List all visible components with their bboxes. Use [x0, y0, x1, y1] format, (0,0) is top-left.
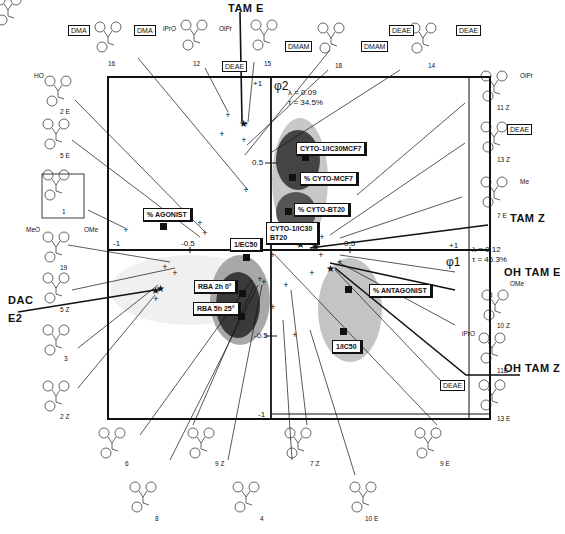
- compound-8: 8: [155, 515, 159, 522]
- compound-10E: 10 E: [365, 515, 378, 522]
- compound-5Z: 5 Z: [60, 306, 69, 313]
- svg-text:+: +: [243, 185, 248, 195]
- svg-text:+: +: [337, 257, 342, 267]
- compound-11Z: 11 Z: [497, 104, 510, 111]
- svg-text:+: +: [270, 250, 275, 260]
- substituent-dmam-right: DMAM: [361, 41, 388, 52]
- var-pct-antagonist: % ANTAGONIST: [369, 284, 433, 298]
- compound-18: 18: [335, 62, 342, 69]
- svg-text:★: ★: [239, 118, 248, 129]
- ref-tam-z: TAM Z: [510, 212, 545, 224]
- svg-text:+: +: [241, 135, 246, 145]
- svg-text:+: +: [172, 268, 177, 278]
- ref-oh-tam-z: OH TAM Z: [504, 362, 560, 374]
- svg-text:★: ★: [151, 285, 160, 296]
- phi1-stats: λ = 0.12 τ = 45.3%: [472, 245, 507, 265]
- compound-7Z: 7 Z: [310, 460, 319, 467]
- svg-text:+: +: [261, 277, 266, 287]
- x-tick-0.5: 0.5: [344, 239, 355, 248]
- substituent-ome-10z: OMe: [510, 280, 524, 287]
- substituent-ipro-11e: iPrO: [462, 330, 475, 337]
- var-ec50: 1/EC50: [230, 238, 263, 252]
- substituent-deae-13z: DEAE: [507, 124, 532, 135]
- factorial-biplot: ++++ +++ ++++ ++++ ++++ +++ ++ ★★★ ★★★ +…: [0, 0, 565, 534]
- var-cyto-ic30-mcf7: CYTO-1/IC30MCF7: [296, 142, 367, 156]
- substituent-deae-13e: DEAE: [440, 380, 465, 391]
- phi2-tau: τ = 34.5%: [288, 98, 323, 108]
- ref-oh-tam-e: OH TAM E: [504, 266, 561, 278]
- substituent-ome-19: OMe: [84, 226, 98, 233]
- compound-9Z: 9 Z: [215, 460, 224, 467]
- var-rba-5h: RBA 5h 25°: [193, 302, 241, 316]
- substituent-deae-14-left: DEAE: [389, 25, 414, 36]
- svg-text:+: +: [219, 129, 224, 139]
- substituent-dma-left: DMA: [68, 25, 90, 36]
- substituent-meo-19: MeO: [26, 226, 40, 233]
- svg-text:+: +: [270, 302, 275, 312]
- substituent-oipr-11z: OiPr: [520, 72, 533, 79]
- compound-9E: 9 E: [440, 460, 450, 467]
- phi1-axis-label: φ1: [446, 255, 460, 269]
- phi2-lambda: λ = 0.09: [288, 88, 323, 98]
- compound-7E: 7 E: [497, 212, 507, 219]
- substituent-ipro: iPrO: [163, 25, 176, 32]
- ref-tam-e: TAM E: [228, 2, 264, 14]
- compound-10Z: 10 Z: [497, 322, 510, 329]
- substituent-deae-14-right: DEAE: [456, 25, 481, 36]
- compound-13E: 13 E: [497, 415, 510, 422]
- y-tick-minus0.5: -0.5: [254, 331, 268, 340]
- x-tick-plus1: +1: [449, 241, 458, 250]
- compound-6: 6: [125, 460, 129, 467]
- compound-3: 3: [64, 355, 68, 362]
- ref-e2: E2: [8, 312, 22, 324]
- var-cyto-ic30-bt20: CYTO-1/IC30 BT20: [266, 222, 320, 245]
- compound-11E: 11E: [497, 367, 508, 374]
- substituent-me-7e: Me: [520, 178, 529, 185]
- svg-text:+: +: [197, 218, 202, 228]
- y-tick-0.5: 0.5: [252, 158, 263, 167]
- svg-text:+: +: [202, 228, 207, 238]
- phi2-stats: λ = 0.09 τ = 34.5%: [288, 88, 323, 108]
- compound-14: 14: [428, 62, 435, 69]
- svg-text:+: +: [283, 280, 288, 290]
- leader-lines: [68, 50, 465, 475]
- svg-text:+: +: [123, 225, 128, 235]
- phi1-tau: τ = 45.3%: [472, 255, 507, 265]
- svg-text:+: +: [319, 232, 324, 242]
- var-pct-cyto-mcf7: % CYTO-MCF7: [300, 172, 359, 186]
- cluster-agonist-rba: [110, 255, 270, 345]
- compound-12: 12: [193, 60, 200, 67]
- y-tick-minus1: -1: [258, 410, 265, 419]
- compound-1: 1: [62, 208, 66, 215]
- compound-15: 15: [264, 60, 271, 67]
- compound-16: 16: [108, 60, 115, 67]
- svg-text:+: +: [162, 262, 167, 272]
- substituent-deae-15: DEAE: [222, 61, 247, 72]
- compound-5E: 5 E: [60, 152, 70, 159]
- svg-text:+: +: [225, 110, 230, 120]
- phi1-lambda: λ = 0.12: [472, 245, 507, 255]
- x-tick-minus0.5: -0.5: [181, 239, 195, 248]
- compound-2Z: 2 Z: [60, 413, 69, 420]
- compound-4: 4: [260, 515, 264, 522]
- substituent-dmam-left: DMAM: [285, 41, 312, 52]
- var-pct-agonist: % AGONIST: [143, 208, 193, 222]
- compound-13Z: 13 Z: [497, 156, 510, 163]
- ref-dac: DAC: [8, 294, 33, 306]
- substituent-dma-right: DMA: [134, 25, 156, 36]
- substituent-oipr: OiPr: [219, 25, 232, 32]
- substituent-ho-2e: HO: [34, 72, 44, 79]
- svg-text:★: ★: [326, 263, 335, 274]
- compound-2E: 2 E: [60, 108, 70, 115]
- compound-19: 19: [60, 264, 67, 271]
- phi2-axis-label: φ2: [274, 79, 288, 93]
- svg-text:+: +: [292, 330, 297, 340]
- x-tick-minus1: -1: [113, 239, 120, 248]
- var-pct-cyto-bt20: % CYTO-BT20: [294, 203, 351, 217]
- var-ic50: 1/IC50: [332, 340, 363, 354]
- var-rba-2h: RBA 2h 0°: [194, 280, 238, 294]
- svg-text:+: +: [309, 268, 314, 278]
- y-tick-plus1: +1: [253, 79, 262, 88]
